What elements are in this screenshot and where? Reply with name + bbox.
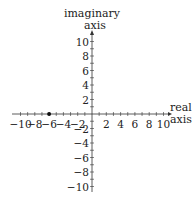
y-tick-label: −6: [74, 152, 90, 164]
complex-point: [47, 112, 51, 116]
y-tick-label: 2: [82, 94, 89, 106]
y-axis-label-line2: axis: [84, 19, 106, 32]
y-tick-label: 8: [82, 50, 89, 62]
data-points: [47, 112, 51, 116]
complex-plane-diagram: −10−8−6−4−2246810108642−2−4−6−8−10 imagi…: [0, 0, 196, 204]
y-tick-label: 10: [76, 36, 89, 48]
y-tick-label: 4: [82, 79, 89, 91]
x-tick-label: 6: [132, 118, 139, 130]
x-tick-label: 10: [157, 118, 170, 130]
x-axis-label-line2: axis: [170, 113, 192, 126]
y-tick-label: −10: [67, 181, 89, 193]
x-tick-label: −8: [27, 118, 42, 130]
x-tick-label: 4: [117, 118, 124, 130]
x-tick-label: 2: [103, 118, 110, 130]
y-tick-label: −2: [74, 123, 89, 135]
y-tick-label: 6: [82, 65, 89, 77]
axes: [12, 30, 172, 192]
x-tick-label: 8: [146, 118, 153, 130]
y-tick-label: −4: [74, 137, 90, 149]
y-tick-label: −8: [74, 166, 89, 178]
